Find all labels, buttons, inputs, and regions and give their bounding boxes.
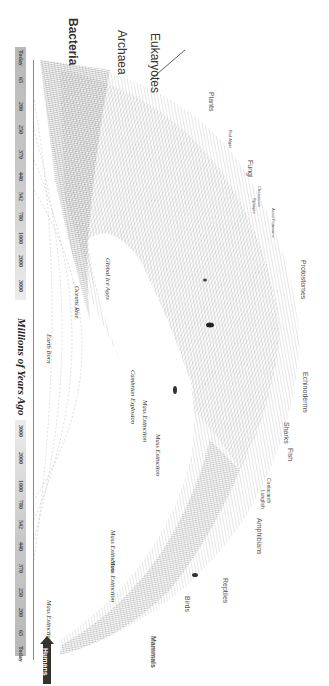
label-fungi: Fungi	[247, 160, 254, 178]
axis-tick: 250	[15, 125, 26, 134]
event-global-ice-ages: Global Ice Ages	[105, 258, 112, 300]
axis-tick: 1000	[15, 232, 26, 244]
axis-tick: 250	[15, 588, 26, 597]
label-sponges: Sponges	[252, 198, 257, 214]
axis-line	[33, 60, 34, 660]
event-mass-extinction: Mass Extinction	[110, 560, 117, 602]
label-archaea: Archaea	[115, 30, 129, 75]
axis-tick: 440	[15, 542, 26, 551]
label-mammals: Mammals	[150, 636, 157, 668]
label-echinoderms: Echinoderms	[302, 372, 309, 413]
axis-tick: 780	[15, 212, 26, 221]
label-reptiles: Reptiles	[222, 578, 229, 603]
label-protostomes: Protostomes	[300, 260, 307, 299]
axis-tick: 370	[15, 564, 26, 573]
axis-title: Millions of Years Ago	[16, 318, 28, 416]
time-axis-bottom: 3000 2000 1000 780 542 440 370 250 200 6…	[15, 420, 26, 656]
label-bacteria: Bacteria	[66, 18, 80, 65]
axis-tick: 780	[15, 500, 26, 509]
label-lungfish: Lungfish	[260, 490, 266, 509]
event-mass-extinction: Mass Extinction	[142, 400, 149, 442]
event-cambrian-explosion: Cambrian Explosion	[130, 370, 137, 424]
axis-tick: 65	[15, 77, 26, 83]
label-plants: Plants	[208, 92, 215, 111]
axis-tick: 200	[15, 608, 26, 617]
event-oceans-rise: Oceans Rise	[74, 286, 81, 318]
event-mass-extinction: Mass Extinction	[155, 434, 162, 476]
label-birds: Birds	[184, 596, 191, 612]
axis-tick: 1000	[15, 480, 26, 492]
axis-tick: Today	[15, 50, 26, 66]
axis-tick: 65	[15, 630, 26, 636]
event-earth-born: Earth Born	[46, 334, 53, 363]
axis-tick: 3000	[15, 425, 26, 437]
axis-tick: 2000	[15, 255, 26, 267]
axis-tick: 440	[15, 172, 26, 181]
axis-tick: 2000	[15, 452, 26, 464]
label-eukaryotes: Eukaryotes	[148, 33, 162, 93]
label-red-algae: Red Algae	[228, 130, 233, 148]
label-amphibians: Amphibians	[256, 518, 263, 555]
time-axis-top: Today 65 200 250 370 440 542 780 1000 20…	[15, 47, 26, 300]
axis-tick: Today	[15, 646, 26, 662]
label-sharks: Sharks	[283, 422, 290, 444]
axis-tick: 200	[15, 102, 26, 111]
label-choanozoa: Choanozoa	[257, 186, 262, 206]
axis-tick: 3000	[15, 280, 26, 292]
label-coelacanth: Coelacanth	[266, 478, 272, 503]
label-fish: Fish	[287, 448, 294, 461]
label-acoel-flatworms: Acoel Flatworms	[271, 208, 276, 238]
axis-tick: 370	[15, 150, 26, 159]
axis-tick: 542	[15, 192, 26, 201]
axis-tick: 542	[15, 520, 26, 529]
label-humans: Humans	[42, 648, 49, 676]
